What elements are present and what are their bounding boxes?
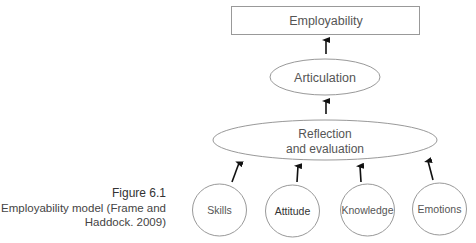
node-employability-label: Employability: [289, 14, 363, 28]
node-reflection-evaluation: Reflection and evaluation: [213, 120, 437, 160]
node-employability: Employability: [232, 7, 420, 35]
node-skills: Skills: [193, 184, 247, 236]
arrow-emotions-to-reflection: [428, 161, 433, 180]
node-reflection-label-line2: and evaluation: [286, 142, 364, 156]
node-articulation: Articulation: [270, 59, 380, 95]
node-articulation-label: Articulation: [294, 71, 356, 85]
arrow-attitude-to-reflection: [297, 166, 298, 182]
node-emotions-label: Emotions: [418, 203, 462, 215]
figure-caption: Figure 6.1 Employability model (Frame an…: [1, 186, 166, 230]
node-knowledge: Knowledge: [341, 184, 395, 236]
arrow-skills-to-reflection: [232, 163, 239, 182]
node-emotions: Emotions: [413, 183, 467, 235]
node-reflection-label-line1: Reflection: [298, 127, 351, 141]
node-attitude-label: Attitude: [275, 205, 311, 217]
figure-caption-line1: Employability model (Frame and: [1, 201, 166, 216]
figure-caption-line2: Haddock. 2009): [1, 215, 166, 230]
node-knowledge-label: Knowledge: [342, 204, 394, 216]
arrow-knowledge-to-reflection: [360, 166, 361, 182]
node-attitude: Attitude: [266, 185, 320, 237]
node-skills-label: Skills: [207, 204, 232, 216]
figure-number: Figure 6.1: [1, 186, 166, 201]
